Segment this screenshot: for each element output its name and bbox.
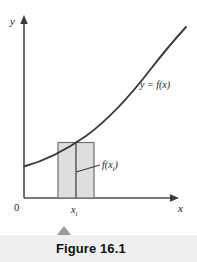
svg-text:xi: xi	[70, 204, 77, 218]
svg-text:f(xi): f(xi)	[102, 159, 119, 173]
function-curve	[24, 27, 186, 167]
caption-pointer-icon	[57, 226, 71, 235]
height-label-paren-close: )	[114, 159, 119, 171]
y-axis-arrow-icon	[20, 15, 28, 24]
x-axis-arrow-icon	[170, 194, 179, 202]
curve-label: y = f(x)	[139, 79, 171, 91]
figure-caption: Figure 16.1	[56, 241, 126, 256]
x-tick-label: xi	[70, 204, 77, 218]
plot-area: y x 0 y = f(x) f(xi) xi	[0, 0, 197, 262]
x-tick-label-subscript: i	[75, 210, 77, 218]
figure-container: y x 0 y = f(x) f(xi) xi Figure 16.1	[0, 0, 197, 262]
right-rectangle	[76, 143, 94, 199]
y-axis-label: y	[9, 15, 15, 27]
caption-bar: Figure 16.1	[0, 235, 197, 262]
height-label: f(xi)	[102, 159, 119, 173]
x-axis-label: x	[177, 202, 183, 214]
origin-label: 0	[14, 202, 19, 213]
